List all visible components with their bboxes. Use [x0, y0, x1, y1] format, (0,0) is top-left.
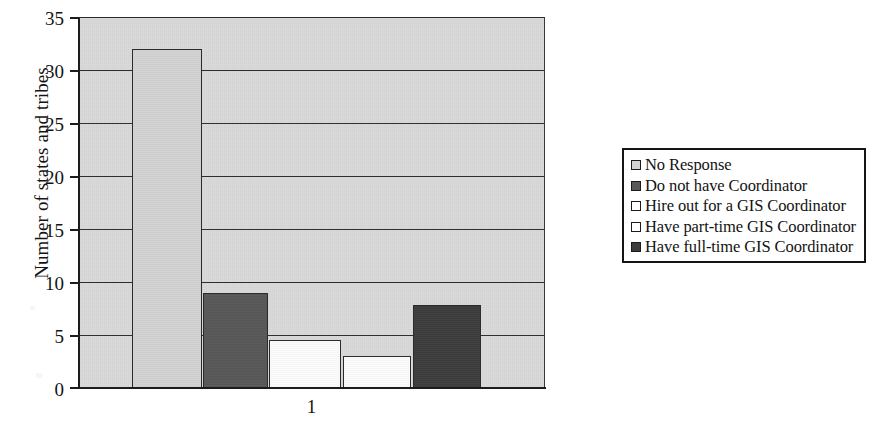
legend-label: Do not have Coordinator [645, 178, 807, 195]
x-axis-category-label: 1 [78, 396, 545, 418]
scan-smudge [36, 373, 42, 378]
legend-item-have-full-time-gis-coordinator: Have full-time GIS Coordinator [631, 237, 858, 258]
y-tick-label-20: 20 [20, 168, 64, 187]
bar-no-response [132, 49, 202, 388]
y-tick-label-30: 30 [20, 62, 64, 81]
legend-item-no-response: No Response [631, 155, 858, 176]
legend-swatch-icon [631, 222, 641, 232]
y-tick-mark-20 [70, 176, 78, 178]
bar-do-not-have-coordinator [203, 293, 268, 388]
y-tick-label-5: 5 [20, 327, 64, 346]
y-tick-label-35: 35 [20, 9, 64, 28]
y-tick-mark-25 [70, 123, 78, 125]
y-tick-label-10: 10 [20, 274, 64, 293]
chart-legend: No Response Do not have Coordinator Hire… [622, 148, 866, 263]
plot-area [78, 17, 545, 388]
y-tick-label-15: 15 [20, 221, 64, 240]
bar-have-part-time-gis-coordinator [343, 356, 411, 388]
legend-label: Have full-time GIS Coordinator [645, 239, 853, 256]
y-tick-mark-30 [70, 70, 78, 72]
y-tick-label-0: 0 [20, 380, 64, 399]
legend-item-hire-out-gis-coordinator: Hire out for a GIS Coordinator [631, 196, 858, 217]
x-axis-line [76, 387, 546, 389]
legend-label: No Response [645, 157, 731, 174]
legend-swatch-icon [631, 242, 641, 252]
legend-swatch-icon [631, 160, 641, 170]
legend-item-have-part-time-gis-coordinator: Have part-time GIS Coordinator [631, 217, 858, 238]
bar-chart-figure: Number of states and tribes 35 30 25 20 … [0, 0, 877, 430]
legend-label: Hire out for a GIS Coordinator [645, 198, 846, 215]
y-tick-mark-10 [70, 282, 78, 284]
bar-have-full-time-gis-coordinator [413, 305, 481, 388]
legend-swatch-icon [631, 181, 641, 191]
y-tick-mark-15 [70, 229, 78, 231]
bar-hire-out-gis-coordinator [269, 340, 341, 388]
legend-item-do-not-have-coordinator: Do not have Coordinator [631, 176, 858, 197]
legend-label: Have part-time GIS Coordinator [645, 219, 856, 236]
legend-swatch-icon [631, 201, 641, 211]
y-tick-mark-5 [70, 335, 78, 337]
y-tick-label-25: 25 [20, 115, 64, 134]
y-tick-mark-35 [70, 17, 78, 19]
